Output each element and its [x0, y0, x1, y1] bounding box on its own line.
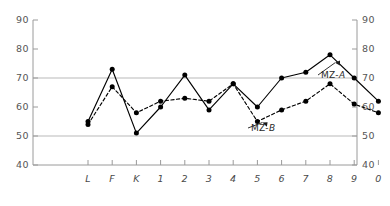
x-tick-label-3: 3: [206, 173, 212, 184]
x-tick-label-8: 8: [327, 173, 333, 184]
x-tick-label-7: 7: [303, 173, 309, 184]
data-point-mz-b-9: [352, 102, 357, 107]
x-axis: LFK1234567890: [33, 160, 382, 184]
data-point-mz-a-5: [255, 105, 260, 110]
mmpi-profile-chart: 405060708090 405060708090 LFK1234567890 …: [0, 0, 390, 206]
data-point-mz-b-4: [231, 81, 236, 86]
data-point-mz-b-7: [303, 99, 308, 104]
data-point-mz-b-1: [158, 99, 163, 104]
data-point-mz-b-L: [86, 122, 91, 127]
data-point-mz-a-F: [110, 67, 115, 72]
data-point-mz-a-7: [303, 70, 308, 75]
y-tick-label-right-40: 40: [362, 159, 375, 170]
data-point-mz-a-9: [352, 76, 357, 81]
data-point-mz-a-1: [158, 105, 163, 110]
annotation-label-mz-a: MZ-A: [321, 70, 345, 80]
y-tick-label-right-50: 50: [362, 130, 375, 141]
data-point-mz-b-8: [328, 81, 333, 86]
y-tick-label-left-40: 40: [16, 159, 29, 170]
data-point-mz-b-6: [279, 107, 284, 112]
data-point-mz-b-K: [134, 110, 139, 115]
data-point-mz-a-6: [279, 76, 284, 81]
x-tick-label-0: 0: [375, 173, 381, 184]
y-tick-label-right-80: 80: [362, 43, 375, 54]
data-point-mz-b-0: [376, 110, 381, 115]
y-tick-label-left-60: 60: [16, 101, 29, 112]
data-point-mz-a-0: [376, 99, 381, 104]
y-tick-label-left-50: 50: [16, 130, 29, 141]
x-tick-label-L: L: [85, 173, 91, 184]
chart-canvas: 405060708090 405060708090 LFK1234567890 …: [0, 0, 390, 206]
y-axis-left: 405060708090: [16, 14, 38, 170]
data-point-mz-a-K: [134, 131, 139, 136]
series-annotations: MZ-AMZ-B: [248, 61, 345, 134]
series-line-mz-b: [88, 84, 378, 125]
data-point-mz-a-8: [328, 52, 333, 57]
annotation-label-mz-b: MZ-B: [251, 123, 275, 133]
y-tick-label-right-70: 70: [362, 72, 375, 83]
x-tick-label-1: 1: [157, 173, 163, 184]
x-tick-label-K: K: [133, 173, 140, 184]
x-tick-label-2: 2: [182, 173, 188, 184]
data-point-mz-b-3: [207, 99, 212, 104]
x-tick-label-F: F: [109, 173, 115, 184]
data-point-mz-b-F: [110, 84, 115, 89]
y-axis-right: 405060708090: [352, 14, 375, 170]
x-tick-label-5: 5: [254, 173, 260, 184]
y-tick-label-left-70: 70: [16, 72, 29, 83]
x-tick-label-9: 9: [351, 173, 357, 184]
data-point-mz-a-2: [182, 73, 187, 78]
series-lines: [88, 55, 378, 133]
data-point-mz-b-2: [182, 96, 187, 101]
data-point-mz-a-3: [207, 107, 212, 112]
series-markers: [86, 52, 381, 135]
y-tick-label-right-90: 90: [362, 14, 375, 25]
y-tick-label-left-90: 90: [16, 14, 29, 25]
y-tick-label-left-80: 80: [16, 43, 29, 54]
grid-lines: [33, 78, 357, 136]
x-tick-label-4: 4: [230, 173, 236, 184]
x-tick-label-6: 6: [278, 173, 284, 184]
series-line-mz-a: [88, 55, 378, 133]
